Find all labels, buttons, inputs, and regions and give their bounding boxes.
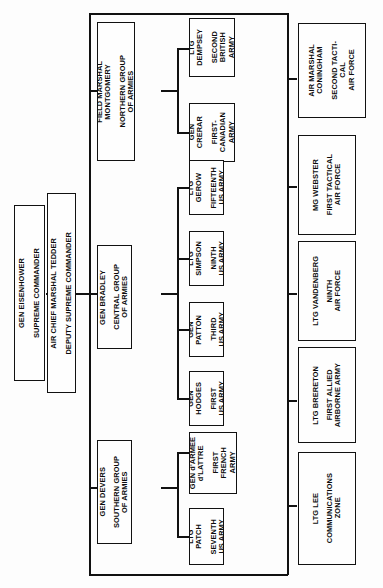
connector-northern-bus bbox=[177, 48, 179, 133]
node-unit-label: FIRST TACTICAL AIR FORCE bbox=[326, 154, 343, 215]
node-commander-label: GEN EISENHOWER bbox=[18, 258, 26, 328]
node-fifteenth-us-army[interactable]: FIFTEENTH US ARMY LTG GEROW bbox=[189, 160, 224, 215]
node-commander-label: LTG BRERETON bbox=[312, 366, 320, 425]
node-commander-label: LTG VANDENBERG bbox=[312, 256, 320, 326]
node-unit-label: CENTRAL GROUP OF ARMIES bbox=[113, 264, 130, 330]
connector-taf2-stub bbox=[287, 78, 297, 80]
node-commander-label: LTG PATCH bbox=[189, 524, 204, 549]
connector-airborne-stub bbox=[287, 400, 297, 402]
node-commander-label: GEN DEVERS bbox=[99, 467, 107, 516]
node-unit-label: FIRST ALLIED AIRBORNE ARMY bbox=[326, 363, 343, 427]
node-commander-label: GEN CRERAR bbox=[189, 116, 205, 148]
node-first-us-army[interactable]: FIRST US ARMY GEN HODGES bbox=[189, 371, 224, 426]
connector-can1-stub bbox=[177, 132, 189, 134]
node-first-french-army[interactable]: FIRST FRENCH ARMY GEN d'ARMEE d'LATTRE bbox=[189, 432, 237, 494]
node-supreme-commander[interactable]: SUPREME COMMANDER GEN EISENHOWER bbox=[14, 205, 45, 381]
connector-af9-stub bbox=[287, 293, 297, 295]
node-unit-label: NINTH US ARMY bbox=[210, 241, 225, 276]
node-communications-zone[interactable]: COMMUNICATIONS ZONE LTG LEE bbox=[298, 452, 356, 565]
node-commander-label: AIR MARSHAL CONINGHAM bbox=[308, 44, 325, 97]
node-unit-label: FIRST- CANADIAN ARMY bbox=[211, 112, 235, 152]
node-commander-label: MG WEBSTER bbox=[312, 159, 320, 211]
connector-central-out bbox=[161, 293, 178, 295]
connector-taf1-stub bbox=[287, 186, 297, 188]
node-commander-label: FIELD MARSHAL MONTGOMERY bbox=[97, 61, 113, 123]
node-second-british-army[interactable]: SECOND BRITISH ARMY LTG DEMPSEY bbox=[189, 18, 235, 77]
node-unit-label: COMMUNICATIONS ZONE bbox=[326, 473, 343, 543]
node-commander-label: AIR CHIEF MARSHAL TEDDER bbox=[50, 238, 58, 349]
node-unit-label: SOUTHERN GROUP OF ARMIES bbox=[113, 456, 130, 528]
node-commander-label: LTG GEROW bbox=[189, 173, 204, 202]
node-commander-label: GEN HODGES bbox=[189, 382, 204, 415]
node-commander-label: LTG SIMPSON bbox=[189, 241, 204, 276]
node-first-canadian-army[interactable]: FIRST- CANADIAN ARMY GEN CRERAR bbox=[189, 103, 235, 162]
connector-central-bus bbox=[177, 187, 179, 399]
connector-top-horizontal bbox=[89, 13, 288, 15]
connector-us3-stub bbox=[177, 329, 189, 331]
node-third-us-army[interactable]: THIRD US ARMY GEN PATTON bbox=[189, 302, 224, 357]
node-commander-label: LTG DEMPSEY bbox=[189, 29, 205, 66]
connector-brit2-stub bbox=[177, 48, 189, 50]
connector-fr1-stub bbox=[177, 452, 189, 454]
org-chart: SUPREME COMMANDER GEN EISENHOWER DEPUTY … bbox=[0, 0, 383, 588]
node-commander-label: GEN BRADLEY bbox=[99, 270, 107, 325]
node-first-allied-airborne-army[interactable]: FIRST ALLIED AIRBORNE ARMY LTG BRERETON bbox=[298, 347, 356, 443]
node-unit-label: THIRD US ARMY bbox=[210, 312, 225, 347]
node-unit-label: NINTH AIR FORCE bbox=[326, 270, 343, 312]
node-seventh-us-army[interactable]: SEVENTH US ARMY LTG PATCH bbox=[189, 508, 224, 565]
node-unit-label: FIRST US ARMY bbox=[210, 381, 225, 416]
node-second-tactical-air-force[interactable]: SECOND TACTI- CAL AIR FORCE AIR MARSHAL … bbox=[298, 23, 366, 118]
node-unit-label: NORTHERN GROUP OF ARMIES bbox=[119, 55, 135, 127]
node-commander-label: LTG LEE bbox=[312, 493, 320, 524]
connector-us9-stub bbox=[177, 258, 189, 260]
connector-us7-stub bbox=[177, 536, 189, 538]
connector-comz-stub bbox=[287, 505, 297, 507]
node-unit-label: FIFTEENTH US ARMY bbox=[210, 167, 225, 209]
node-southern-group-of-armies[interactable]: SOUTHERN GROUP OF ARMIES GEN DEVERS bbox=[97, 440, 132, 544]
node-ninth-us-army[interactable]: NINTH US ARMY LTG SIMPSON bbox=[189, 231, 224, 286]
connector-us1-stub bbox=[177, 398, 189, 400]
node-unit-label: SUPREME COMMANDER bbox=[33, 248, 41, 338]
node-commander-label: GEN PATTON bbox=[189, 315, 204, 345]
connector-us15-stub bbox=[177, 187, 189, 189]
node-unit-label: SEVENTH US ARMY bbox=[210, 519, 225, 555]
node-unit-label: FIRST FRENCH ARMY bbox=[212, 447, 237, 478]
node-ninth-air-force[interactable]: NINTH AIR FORCE LTG VANDENBERG bbox=[298, 241, 356, 341]
node-unit-label: DEPUTY SUPREME COMMANDER bbox=[65, 232, 73, 355]
connector-northern-out bbox=[161, 90, 178, 92]
node-northern-group-of-armies[interactable]: NORTHERN GROUP OF ARMIES FIELD MARSHAL M… bbox=[97, 22, 135, 161]
connector-southern-out bbox=[161, 487, 178, 489]
node-unit-label: SECOND TACTI- CAL AIR FORCE bbox=[331, 41, 356, 100]
node-unit-label: SECOND BRITISH ARMY bbox=[211, 31, 235, 63]
node-deputy-supreme-commander[interactable]: DEPUTY SUPREME COMMANDER AIR CHIEF MARSH… bbox=[47, 193, 76, 393]
connector-bottom-horizontal bbox=[89, 574, 288, 576]
connector-southern-bus bbox=[177, 452, 179, 537]
node-commander-label: GEN d'ARMEE d'LATTRE bbox=[189, 437, 206, 489]
node-central-group-of-armies[interactable]: CENTRAL GROUP OF ARMIES GEN BRADLEY bbox=[97, 245, 132, 349]
node-first-tactical-air-force[interactable]: FIRST TACTICAL AIR FORCE MG WEBSTER bbox=[298, 135, 356, 235]
